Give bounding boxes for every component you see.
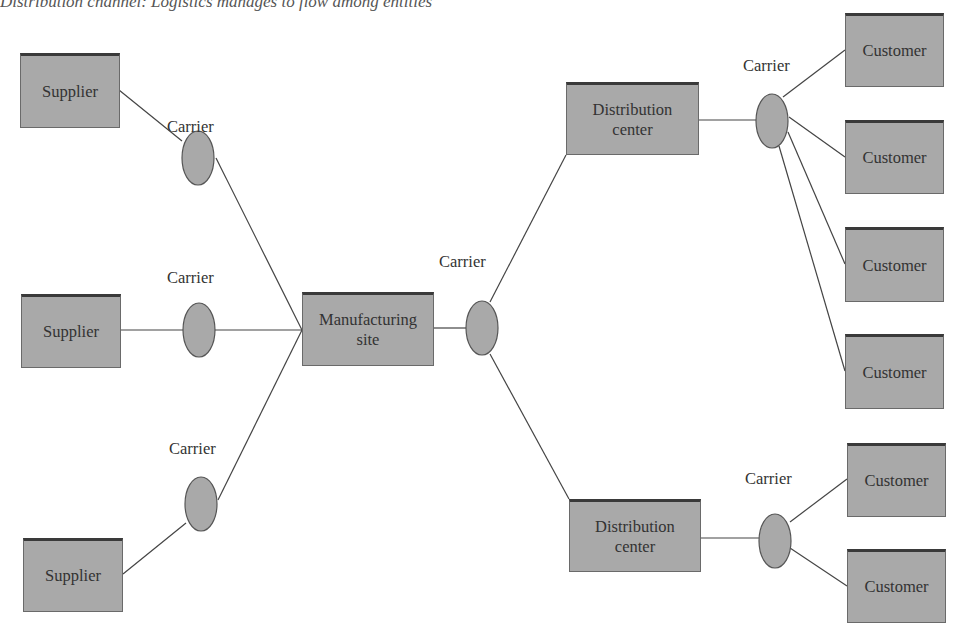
- supplier-box-1: Supplier: [20, 53, 120, 128]
- carrier-ellipse-mfg: [466, 301, 498, 355]
- carrier-label-2: Carrier: [167, 268, 214, 288]
- carrier-ellipse-dc1: [756, 94, 788, 148]
- customer-box-3: Customer: [845, 227, 944, 302]
- supplier-box-3: Supplier: [23, 538, 123, 612]
- carrier-label-dc2: Carrier: [745, 469, 792, 489]
- distribution-center-box-1: Distribution center: [566, 82, 699, 155]
- carrier-label-3: Carrier: [169, 439, 216, 459]
- customer-box-5: Customer: [847, 443, 946, 517]
- manufacturing-site-box: Manufacturing site: [302, 292, 434, 366]
- carrier-label-1: Carrier: [167, 117, 214, 137]
- distribution-center-box-2: Distribution center: [569, 499, 701, 572]
- carrier-label-mfg: Carrier: [439, 252, 486, 272]
- carrier-ellipse-2: [183, 303, 215, 357]
- carrier-ellipse-3: [185, 477, 217, 531]
- carrier-ellipse-1: [182, 131, 214, 185]
- customer-box-2: Customer: [845, 120, 944, 194]
- customer-box-1: Customer: [845, 13, 944, 87]
- carrier-label-dc1: Carrier: [743, 56, 790, 76]
- customer-box-6: Customer: [847, 549, 946, 623]
- supplier-box-2: Supplier: [21, 294, 121, 368]
- customer-box-4: Customer: [845, 334, 944, 409]
- carrier-ellipse-dc2: [759, 514, 791, 568]
- connector-lines: [0, 0, 960, 636]
